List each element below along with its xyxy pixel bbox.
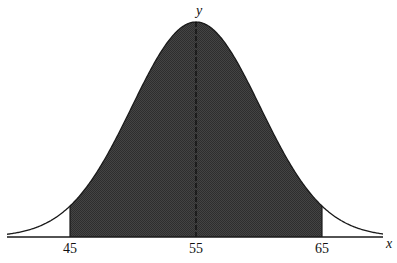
x-axis-label: x bbox=[385, 236, 393, 251]
normal-curve-diagram: 45 55 65 y x bbox=[0, 0, 397, 263]
tick-label-45: 45 bbox=[63, 241, 77, 256]
tick-label-65: 65 bbox=[315, 241, 329, 256]
tick-label-55: 55 bbox=[189, 241, 203, 256]
y-axis-label: y bbox=[194, 3, 203, 18]
